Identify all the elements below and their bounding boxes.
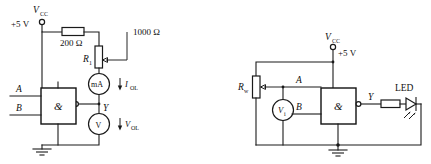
variable-resistor-r1-body [95,46,103,68]
supply-voltage-right-label: +5 V [338,48,357,58]
vcc-symbol-right-label: V [325,32,332,42]
circuit-diagram-svg: V CC +5 V 200 Ω R 1 1000 Ω mA [0,0,431,164]
gate-symbol-right: & [334,100,343,112]
led-label: LED [395,83,414,93]
wire-vcc-to-pot-right [256,62,333,76]
input-b-label-left: B [16,103,22,113]
iol-subscript-label: OL [130,85,138,91]
vcc-symbol-left-label: V [33,5,40,15]
output-y-label-right: Y [368,92,375,102]
led-triangle [406,98,416,110]
figure-canvas: V CC +5 V 200 Ω R 1 1000 Ω mA [0,0,431,164]
vcc-symbol-left-subscript: CC [40,11,48,17]
supply-voltage-left-label: +5 V [11,19,30,29]
wire-voltmeter-to-ground-left [42,135,99,146]
input-a-label-right: A [295,75,302,85]
vol-arrow-head [118,126,122,131]
wire-resistor-to-pot-left [84,32,99,46]
input-potentiometer-rw-subscript: w [244,88,249,94]
input-potentiometer-rw-body [253,76,261,98]
ground-symbol-left [33,145,51,155]
vcc-symbol-right-subscript: CC [332,38,340,44]
wire-vcc-to-resistor-left [42,25,62,32]
variable-resistor-r1-subscript: 1 [89,60,92,66]
series-resistor-value-label: 200 Ω [60,38,83,48]
right-circuit: V CC +5 V R w A V i [237,32,421,156]
vcc-terminal-left[interactable] [39,19,44,24]
voltmeter-label: V [96,121,102,130]
variable-resistor-r1-designator: R [82,54,89,64]
input-potentiometer-rw-designator: R [237,82,244,92]
vol-subscript-label: OL [131,125,139,131]
series-resistor-200ohm [62,28,84,36]
vcc-terminal-right[interactable] [330,44,335,49]
led-symbol [404,98,421,120]
ammeter-label: mA [91,80,103,89]
iol-arrow-head [118,86,122,91]
variable-resistor-r1-value-label: 1000 Ω [133,27,160,37]
wiper-wire-left [106,32,127,60]
left-circuit: V CC +5 V 200 Ω R 1 1000 Ω mA [10,5,160,155]
ground-symbol-right [329,145,347,156]
iol-symbol-label: I [124,79,129,89]
output-y-label-left: Y [103,103,110,113]
input-b-label-right: B [296,102,302,112]
gate-symbol-left: & [54,100,63,112]
input-a-label-left: A [15,84,22,94]
led-series-resistor [381,100,400,108]
inversion-bubble-right [356,102,361,107]
